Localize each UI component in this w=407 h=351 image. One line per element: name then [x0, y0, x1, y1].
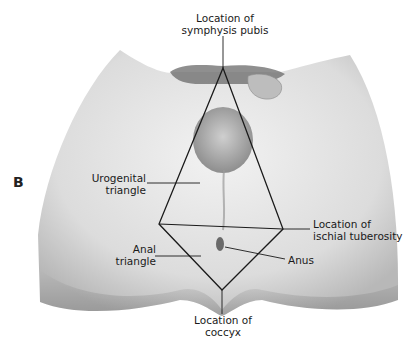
anus-mark	[216, 237, 224, 251]
label-ischial-tuberosity: Location of ischial tuberosity	[313, 218, 407, 242]
label-coccyx: Location of coccyx	[190, 314, 256, 338]
label-symphysis-pubis: Location of symphysis pubis	[190, 12, 260, 36]
perineum-diagram	[0, 0, 407, 351]
label-urogenital-triangle: Urogenital triangle	[90, 172, 146, 196]
label-anal-triangle: Anal triangle	[112, 243, 156, 267]
label-anus: Anus	[288, 254, 328, 266]
scrotum	[193, 107, 253, 173]
panel-letter: B	[13, 174, 24, 190]
